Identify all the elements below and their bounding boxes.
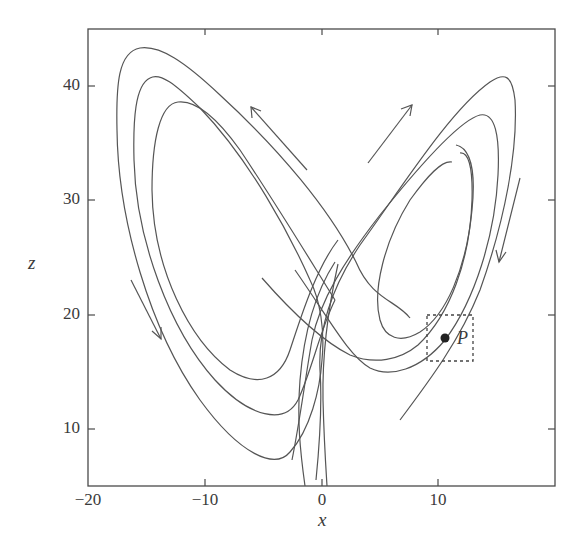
x-tick-neg10: −10 (180, 490, 230, 510)
arrow-up-left-icon (251, 107, 307, 170)
trajectory-middle-left (134, 76, 335, 414)
x-axis-ticks (205, 29, 438, 486)
arrow-up-right-icon (368, 105, 412, 163)
plot-frame (88, 29, 555, 486)
trajectory-innermost-right (378, 145, 474, 338)
point-p-marker (441, 334, 450, 343)
trajectory (117, 48, 516, 486)
x-axis-label: x (318, 509, 326, 531)
y-tick-20: 20 (40, 304, 80, 324)
trajectory-inner-left (152, 102, 338, 380)
arrow-down-right-icon (131, 280, 161, 339)
y-tick-30: 30 (40, 189, 80, 209)
point-p-label: P (457, 328, 468, 349)
trajectory-outer-right (316, 77, 515, 480)
trajectory-center-strand-a (299, 262, 335, 486)
y-tick-10: 10 (40, 418, 80, 438)
y-axis-ticks (88, 86, 555, 429)
lorenz-attractor-plot (0, 0, 585, 556)
x-tick-10: 10 (413, 490, 463, 510)
x-tick-0: 0 (297, 490, 347, 510)
trajectory-inner-right (262, 153, 472, 360)
y-tick-40: 40 (40, 75, 80, 95)
y-axis-label: z (28, 252, 35, 274)
direction-arrows (131, 105, 520, 339)
trajectory-center-strand-b (323, 264, 338, 486)
x-tick-neg20: −20 (63, 490, 113, 510)
